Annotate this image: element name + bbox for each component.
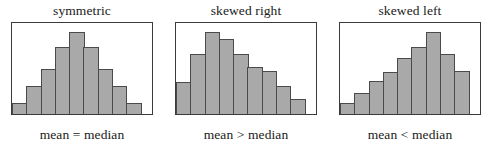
histogram-bar — [290, 99, 305, 114]
histogram-bar — [426, 32, 441, 114]
plot-box — [11, 22, 153, 115]
panel-title: symmetric — [53, 0, 111, 22]
histogram-bar — [55, 47, 70, 114]
histogram-bar — [383, 72, 398, 114]
histogram-bar — [340, 103, 355, 114]
panel-symmetric: symmetric mean = median — [0, 0, 164, 160]
panel-skewed-right: skewed right mean > median — [164, 0, 328, 160]
panel-skewed-left: skewed left mean < median — [328, 0, 492, 160]
panel-title: skewed right — [211, 0, 282, 22]
plot-box — [175, 22, 317, 115]
histogram-bar — [26, 86, 41, 114]
histogram-bar — [112, 86, 127, 114]
bar-group-symmetric — [12, 23, 152, 114]
histogram-bar — [98, 69, 113, 114]
bar-group-skewed-left — [340, 23, 480, 114]
histogram-bar — [369, 81, 384, 114]
histogram-bar — [41, 69, 56, 114]
histogram-bar — [190, 54, 205, 114]
histogram-bar — [440, 54, 455, 114]
histogram-bar — [276, 86, 291, 114]
histogram-bar — [247, 67, 262, 114]
histogram-bar — [233, 54, 248, 114]
histogram-bar — [83, 47, 98, 114]
histogram-bar — [454, 71, 469, 114]
bar-group-skewed-right — [176, 23, 316, 114]
histogram-bar — [176, 82, 191, 114]
histogram-bar — [126, 103, 141, 114]
plot-box — [339, 22, 481, 115]
histogram-bar — [397, 58, 412, 114]
panel-title: skewed left — [379, 0, 442, 22]
histogram-shapes-figure: symmetric mean = median skewed right mea… — [0, 0, 492, 160]
histogram-bar — [12, 103, 27, 114]
panel-caption: mean < median — [368, 125, 453, 145]
histogram-bar — [411, 47, 426, 114]
panel-caption: mean > median — [204, 125, 289, 145]
histogram-bar — [219, 39, 234, 114]
panel-caption: mean = median — [40, 125, 125, 145]
histogram-bar — [262, 71, 277, 114]
histogram-bar — [69, 32, 84, 114]
histogram-bar — [205, 32, 220, 114]
histogram-bar — [354, 93, 369, 114]
